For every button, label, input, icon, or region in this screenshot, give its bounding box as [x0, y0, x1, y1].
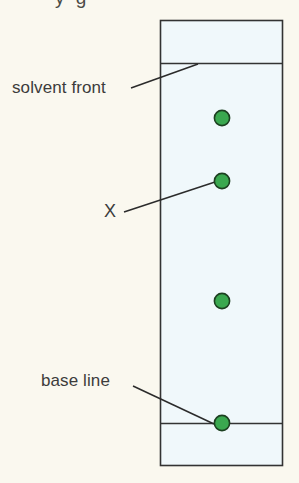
label-x-marker: X	[104, 202, 116, 220]
sample-spot-1	[214, 110, 229, 125]
sample-spot-2	[214, 173, 229, 188]
tlc-diagram	[0, 0, 299, 483]
label-base-line: base line	[41, 372, 110, 389]
sample-spot-4	[214, 415, 229, 430]
sample-spot-3	[214, 293, 229, 308]
figure-canvas: y g solvent front X base line	[0, 0, 299, 483]
label-solvent-front: solvent front	[12, 79, 106, 96]
tlc-plate	[161, 21, 283, 466]
